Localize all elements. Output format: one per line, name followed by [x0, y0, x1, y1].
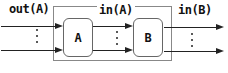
node-a-box: A	[63, 18, 93, 57]
label-in-a: in(A)	[97, 3, 135, 17]
node-b-box: B	[133, 18, 163, 57]
edge-input-to-a-top-line	[1, 26, 55, 27]
label-in-b: in(B)	[178, 3, 212, 17]
vdots-left-icon	[36, 29, 38, 43]
edge-b-to-output-top-arrowhead-icon	[216, 24, 224, 30]
node-a-label: A	[74, 31, 81, 45]
label-out-a: out(A)	[9, 2, 49, 16]
edge-b-to-output-bottom-arrowhead-icon	[216, 48, 224, 54]
edge-a-to-b-top-line	[93, 26, 125, 27]
edge-input-to-a-top-arrowhead-icon	[55, 23, 63, 29]
edge-b-to-output-top-line	[164, 27, 216, 28]
vdots-middle-icon	[116, 31, 118, 45]
edge-input-to-a-bottom-arrowhead-icon	[55, 47, 63, 53]
edge-input-to-a-bottom-line	[1, 50, 55, 51]
edge-a-to-b-bottom-line	[93, 50, 125, 51]
diagram-canvas: out(A) in(A) in(B) A B	[0, 0, 228, 73]
edge-a-to-b-top-arrowhead-icon	[125, 23, 133, 29]
vdots-right-icon	[191, 33, 193, 47]
edge-a-to-b-bottom-arrowhead-icon	[125, 47, 133, 53]
node-b-label: B	[144, 31, 151, 45]
edge-b-to-output-bottom-line	[164, 51, 216, 52]
